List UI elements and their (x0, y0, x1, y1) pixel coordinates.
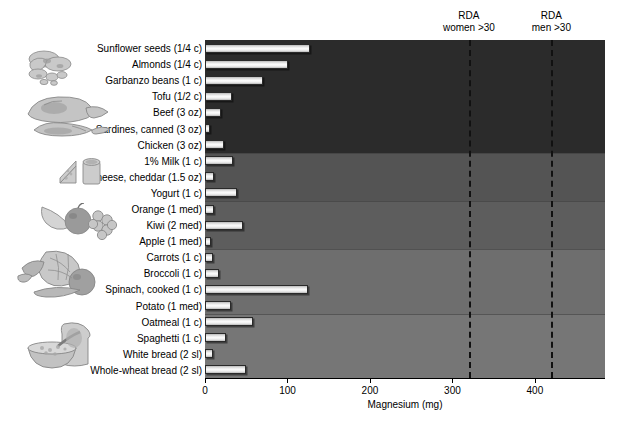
background-band (205, 201, 605, 249)
rda-label-line2: women >30 (443, 22, 495, 34)
category-label: Oatmeal (1 c) (141, 316, 202, 327)
food-illustration-fruits (36, 203, 122, 243)
food-illustration-grains (22, 318, 114, 376)
bar (205, 221, 243, 230)
x-tick-label: 200 (362, 385, 379, 396)
bar (205, 317, 253, 326)
band-divider (205, 249, 605, 250)
bar (205, 349, 213, 358)
x-axis-line (205, 378, 605, 379)
plot-area (205, 40, 605, 378)
bar (205, 301, 231, 310)
x-axis-title: Magnesium (mg) (205, 399, 605, 410)
bar (205, 285, 308, 294)
bar (205, 365, 246, 374)
category-label: Cheese, cheddar (1.5 oz) (89, 171, 202, 182)
category-label: Beef (3 oz) (153, 107, 202, 118)
category-label: Yogurt (1 c) (151, 187, 202, 198)
bar (205, 205, 214, 214)
category-label: Broccoli (1 c) (144, 268, 202, 279)
bar (205, 237, 211, 246)
magnesium-food-sources-chart: RDAwomen >30RDAmen >30 Sunflower seeds (… (0, 0, 623, 427)
category-label: Apple (1 med) (139, 236, 202, 247)
band-divider (205, 314, 605, 315)
bar (205, 108, 221, 117)
x-tick-label: 100 (279, 385, 296, 396)
rda-label-line1: RDA (532, 10, 571, 22)
bar (205, 140, 224, 149)
background-band (205, 40, 605, 153)
bar (205, 156, 233, 165)
category-label: Spinach, cooked (1 c) (105, 284, 202, 295)
band-divider (205, 201, 605, 202)
rda-label-line1: RDA (443, 10, 495, 22)
bar (205, 188, 237, 197)
category-label: Spaghetti (1 c) (137, 332, 202, 343)
bar (205, 269, 219, 278)
bar (205, 44, 310, 53)
food-illustration-meat-fish-poultry (14, 92, 124, 140)
food-illustration-vegetables (16, 246, 116, 302)
background-band (205, 314, 605, 378)
category-label: Kiwi (2 med) (146, 220, 202, 231)
bar (205, 60, 288, 69)
bar (205, 92, 232, 101)
food-illustration-dairy (56, 154, 106, 190)
x-tick-label: 400 (527, 385, 544, 396)
category-label: Sunflower seeds (1/4 c) (97, 43, 202, 54)
x-tick (535, 378, 536, 383)
band-divider (205, 153, 605, 154)
x-tick (205, 378, 206, 383)
rda-threshold-label: RDAwomen >30 (443, 10, 495, 34)
x-tick-label: 0 (202, 385, 208, 396)
category-label: 1% Milk (1 c) (144, 155, 202, 166)
category-label: Garbanzo beans (1 c) (105, 75, 202, 86)
rda-label-line2: men >30 (532, 22, 571, 34)
x-tick (287, 378, 288, 383)
bar (205, 172, 214, 181)
background-band (205, 153, 605, 201)
bar (205, 253, 213, 262)
bar (205, 333, 226, 342)
food-illustration-nuts-seeds-legumes (14, 47, 88, 91)
category-label: Tofu (1/2 c) (152, 91, 202, 102)
background-band (205, 249, 605, 313)
category-label: Chicken (3 oz) (138, 139, 202, 150)
rda-threshold-label: RDAmen >30 (532, 10, 571, 34)
category-label: Orange (1 med) (131, 204, 202, 215)
bar (205, 124, 210, 133)
x-tick-label: 300 (444, 385, 461, 396)
category-label: Carrots (1 c) (146, 252, 202, 263)
x-tick (370, 378, 371, 383)
category-label: Potato (1 med) (136, 300, 202, 311)
bar (205, 76, 263, 85)
x-tick (452, 378, 453, 383)
rda-threshold-line (551, 40, 553, 378)
category-label: White bread (2 sl) (123, 348, 202, 359)
rda-threshold-line (469, 40, 471, 378)
category-label: Almonds (1/4 c) (132, 59, 202, 70)
